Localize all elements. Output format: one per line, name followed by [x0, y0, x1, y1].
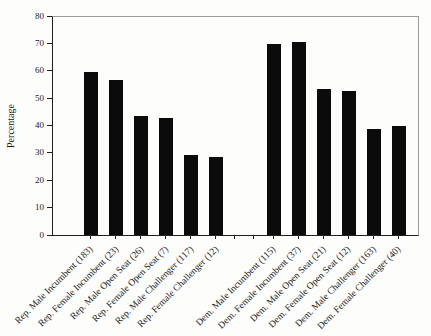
y-axis-tick-80	[47, 16, 52, 17]
x-axis-tick-4	[190, 236, 191, 239]
y-axis-tick-label-40: 40	[26, 121, 44, 130]
y-axis-tick-label-70: 70	[26, 39, 44, 48]
x-axis-tick-6	[273, 236, 274, 239]
x-axis-tick-7	[298, 236, 299, 239]
x-axis-tick-5	[215, 236, 216, 239]
y-axis-tick-60	[47, 70, 52, 71]
x-axis-tick-2	[140, 236, 141, 239]
y-axis-tick-0	[47, 235, 52, 236]
y-axis-tick-20	[47, 180, 52, 181]
bar-9	[342, 91, 356, 235]
x-axis-tick-12	[234, 236, 235, 239]
bar-4	[184, 155, 198, 235]
bar-1	[109, 80, 123, 235]
y-axis-title: Percentage	[5, 104, 16, 148]
y-axis-tick-label-0: 0	[26, 231, 44, 240]
bar-0	[84, 72, 98, 236]
y-axis-tick-10	[47, 207, 52, 208]
x-axis-tick-3	[165, 236, 166, 239]
y-axis-tick-label-10: 10	[26, 203, 44, 212]
x-axis-tick-10	[373, 236, 374, 239]
x-axis-labels: Rep. Male Incumbent (183)Rep. Female Inc…	[52, 240, 419, 330]
y-axis-tick-label-60: 60	[26, 66, 44, 75]
bar-3	[159, 118, 173, 235]
y-axis-tick-30	[47, 152, 52, 153]
y-axis-tick-label-20: 20	[26, 176, 44, 185]
y-axis-tick-40	[47, 125, 52, 126]
x-axis-tick-8	[323, 236, 324, 239]
y-axis-tick-label-30: 30	[26, 148, 44, 157]
bar-5	[209, 157, 223, 235]
bar-2	[134, 116, 148, 235]
x-axis-tick-13	[253, 236, 254, 239]
y-axis-tick-label-50: 50	[26, 94, 44, 103]
bar-7	[292, 42, 306, 235]
bar-10	[367, 129, 381, 235]
y-axis-tick-50	[47, 98, 52, 99]
bar-chart-figure: Percentage Rep. Male Incumbent (183)Rep.…	[0, 0, 431, 336]
y-axis-tick-label-80: 80	[26, 12, 44, 21]
x-axis-tick-11	[398, 236, 399, 239]
y-axis-tick-70	[47, 43, 52, 44]
bar-11	[392, 126, 406, 235]
bar-6	[267, 44, 281, 235]
x-axis-tick-1	[115, 236, 116, 239]
plot-area	[52, 16, 419, 236]
x-axis-tick-0	[90, 236, 91, 239]
x-axis-tick-9	[348, 236, 349, 239]
bar-8	[317, 89, 331, 235]
